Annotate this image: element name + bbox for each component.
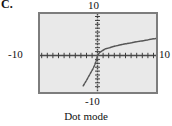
graph-plot (40, 14, 156, 92)
figure-caption: Dot mode (0, 110, 172, 122)
figure-panel: C. (0, 0, 172, 126)
axis-label-top: 10 (88, 0, 99, 11)
part-label: C. (1, 0, 13, 10)
calculator-screen (38, 12, 158, 94)
axis-label-right: 10 (159, 49, 170, 60)
axis-label-left: -10 (8, 49, 23, 60)
axis-label-bottom: -10 (85, 96, 100, 107)
